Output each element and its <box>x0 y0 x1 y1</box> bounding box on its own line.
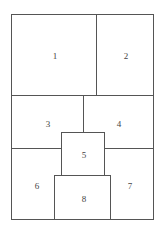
region-label-6: 6 <box>35 181 40 191</box>
region-label-7: 7 <box>128 181 133 191</box>
region-diagram: 1 2 3 4 5 6 7 8 <box>0 0 158 233</box>
region-label-1: 1 <box>53 51 58 61</box>
region-label-3: 3 <box>46 119 51 129</box>
region-label-8: 8 <box>82 194 87 204</box>
region-label-4: 4 <box>117 119 122 129</box>
region-label-5: 5 <box>82 150 87 160</box>
region-label-2: 2 <box>124 51 129 61</box>
